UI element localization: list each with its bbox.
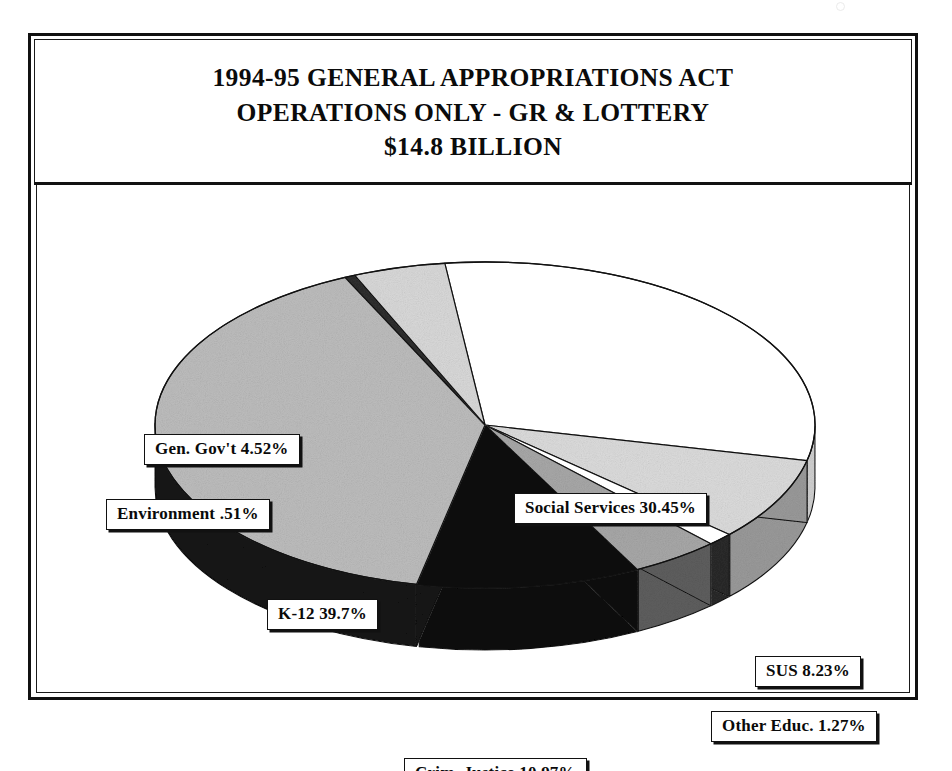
callout-social-services: Social Services 30.45% (514, 493, 707, 524)
callout-gen-gov: Gen. Gov't 4.52% (144, 434, 300, 465)
scanned-page: 1994-95 GENERAL APPROPRIATIONS ACT OPERA… (0, 0, 952, 771)
pie-chart-area: Gen. Gov't 4.52% Environment .51% Social… (34, 190, 912, 698)
title-block: 1994-95 GENERAL APPROPRIATIONS ACT OPERA… (34, 39, 912, 185)
title-line-1: 1994-95 GENERAL APPROPRIATIONS ACT (212, 61, 733, 96)
pie-top-faces (155, 262, 815, 588)
callout-k12: K-12 39.7% (267, 599, 378, 630)
callout-sus: SUS 8.23% (755, 656, 861, 687)
title-line-2: OPERATIONS ONLY - GR & LOTTERY (237, 96, 710, 131)
title-line-3: $14.8 BILLION (384, 130, 562, 165)
callout-crim-justice: Crim. Justice 10.97% (404, 758, 587, 771)
scan-artifact-speck (836, 2, 845, 11)
callout-environment: Environment .51% (106, 499, 270, 530)
callout-other-educ: Other Educ. 1.27% (711, 711, 877, 742)
